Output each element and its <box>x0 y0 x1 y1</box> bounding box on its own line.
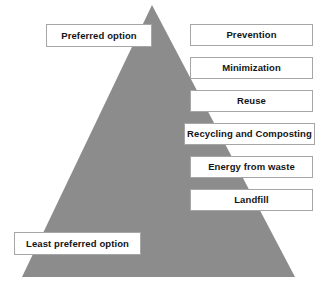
stage-box-minimization: Minimization <box>190 57 313 79</box>
stage-box-recycling-and-composting: Recycling and Composting <box>184 123 315 145</box>
stage-box-landfill: Landfill <box>190 189 313 211</box>
stage-box-energy-from-waste: Energy from waste <box>190 156 313 178</box>
preferred-option-label: Preferred option <box>61 31 137 41</box>
stage-box-prevention: Prevention <box>190 24 313 46</box>
stage-label: Minimization <box>222 63 281 73</box>
least-preferred-option-label: Least preferred option <box>26 239 129 249</box>
preferred-option-note: Preferred option <box>46 24 152 47</box>
least-preferred-option-note: Least preferred option <box>14 232 141 255</box>
stage-label: Recycling and Composting <box>187 129 312 139</box>
stage-label: Reuse <box>237 96 266 106</box>
stage-label: Prevention <box>226 30 276 40</box>
stage-box-reuse: Reuse <box>190 90 313 112</box>
stage-label: Energy from waste <box>208 162 295 172</box>
stage-label: Landfill <box>234 195 269 205</box>
waste-hierarchy-diagram: Preferred option Least preferred option … <box>0 0 317 288</box>
